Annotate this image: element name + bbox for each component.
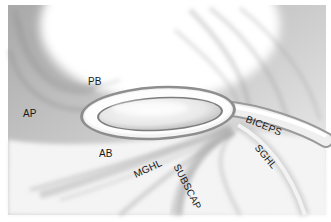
shoulder-arthroscopy-illustration: PB AP AB MGHL SUBSCAP BICEPS SGHL [0,0,331,222]
label-ab: AB [99,148,113,159]
anatomy-drawing [0,0,331,222]
label-pb: PB [88,76,102,87]
label-ap: AP [23,108,37,119]
